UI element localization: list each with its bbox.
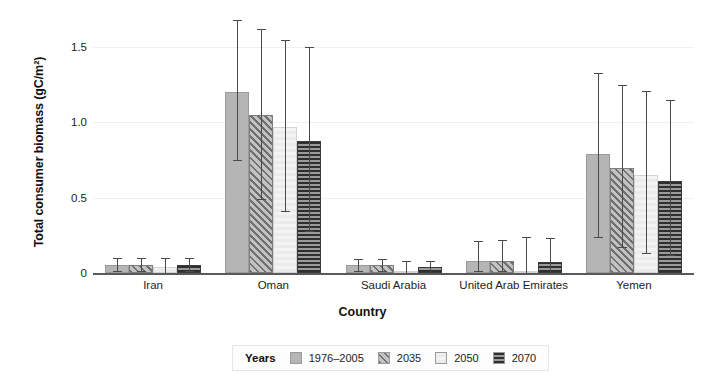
- error-bar: [670, 100, 671, 255]
- error-bar-cap: [185, 258, 194, 259]
- error-bar-cap: [642, 91, 651, 92]
- legend-item-label: 1976–2005: [309, 352, 364, 364]
- error-bar: [406, 261, 407, 273]
- error-bar: [430, 261, 431, 273]
- error-bar: [502, 240, 503, 272]
- error-bar-cap: [618, 85, 627, 86]
- error-bar: [309, 47, 310, 231]
- x-axis-tick-label-yemen: Yemen: [616, 279, 651, 291]
- error-bar-cap: [378, 259, 387, 260]
- error-bar-cap: [594, 237, 603, 238]
- error-bar-cap: [305, 231, 314, 232]
- y-axis-tick-label: 1.0: [41, 116, 87, 128]
- error-bar-cap: [305, 47, 314, 48]
- error-bar-cap: [233, 160, 242, 161]
- legend-swatch-icon: [290, 352, 302, 364]
- error-bar-cap: [281, 211, 290, 212]
- error-bar-cap: [233, 20, 242, 21]
- error-bar-cap: [642, 253, 651, 254]
- error-bar: [358, 259, 359, 271]
- error-bar: [598, 73, 599, 237]
- error-bar-cap: [402, 261, 411, 262]
- error-bar-cap: [257, 199, 266, 200]
- legend-swatch-icon: [435, 352, 447, 364]
- legend-item-label: 2070: [512, 352, 536, 364]
- y-axis-tick-label: 1.5: [41, 41, 87, 53]
- legend-item-label: 2050: [454, 352, 478, 364]
- error-bar-cap: [546, 238, 555, 239]
- error-bar: [646, 91, 647, 254]
- error-bar: [141, 258, 142, 272]
- error-bar: [622, 85, 623, 248]
- error-bar-cap: [618, 247, 627, 248]
- error-bar: [382, 259, 383, 271]
- y-axis-tick-labels: 00.51.01.5: [41, 14, 87, 273]
- error-bar: [165, 258, 166, 273]
- error-bar-cap: [281, 40, 290, 41]
- x-axis-tick-label-united-arab-emirates: United Arab Emirates: [459, 279, 568, 291]
- error-bar: [526, 237, 527, 273]
- error-bar-cap: [594, 73, 603, 74]
- error-bar-cap: [666, 100, 675, 101]
- error-bar-cap: [354, 259, 363, 260]
- error-bar: [117, 258, 118, 272]
- error-bar-cap: [113, 258, 122, 259]
- error-bar-cap: [498, 240, 507, 241]
- error-bar: [550, 238, 551, 273]
- legend-item[interactable]: 2035: [378, 352, 421, 364]
- legend-swatch-icon: [493, 352, 505, 364]
- x-axis-tick-label-oman: Oman: [258, 279, 289, 291]
- y-axis-tick-label: 0: [41, 267, 87, 279]
- x-axis-tick-label-saudi-arabia: Saudi Arabia: [361, 279, 426, 291]
- error-bar-cap: [666, 255, 675, 256]
- error-bar-cap: [137, 258, 146, 259]
- error-bar-cap: [257, 29, 266, 30]
- error-bar: [189, 258, 190, 272]
- legend-title: Years: [245, 352, 276, 364]
- legend-swatch-icon: [378, 352, 390, 364]
- error-bar: [237, 20, 238, 160]
- chart-legend: Years 1976–2005203520502070: [232, 345, 549, 371]
- error-bar-cap: [474, 241, 483, 242]
- error-bar-cap: [161, 258, 170, 259]
- legend-item-label: 2035: [397, 352, 421, 364]
- legend-item[interactable]: 2070: [493, 352, 536, 364]
- error-bar-cap: [426, 261, 435, 262]
- legend-item[interactable]: 1976–2005: [290, 352, 364, 364]
- error-bar-cap: [522, 237, 531, 238]
- gridline: [93, 47, 694, 48]
- error-bar: [478, 241, 479, 271]
- x-axis-tick-label-iran: Iran: [143, 279, 163, 291]
- bar-chart: Total consumer biomass (gC/m²) 00.51.01.…: [0, 0, 725, 383]
- y-axis-tick-label: 0.5: [41, 192, 87, 204]
- x-axis-title: Country: [0, 305, 725, 319]
- error-bar: [261, 29, 262, 199]
- error-bar: [285, 40, 286, 212]
- x-axis-line: [93, 273, 694, 275]
- gridline: [93, 122, 694, 123]
- plot-area: [93, 14, 694, 273]
- legend-item[interactable]: 2050: [435, 352, 478, 364]
